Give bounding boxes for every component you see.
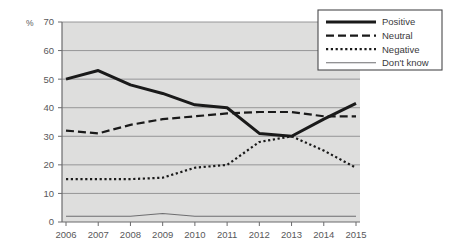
y-axis-tick-label: 0 <box>49 216 54 227</box>
y-axis-tick-label: 10 <box>43 188 54 199</box>
x-axis-tick-label: 2014 <box>313 229 334 240</box>
legend-label: Don't know <box>382 57 429 68</box>
y-axis-unit-label: % <box>26 18 34 28</box>
x-axis-tick-label: 2008 <box>120 229 141 240</box>
x-axis-tick-label: 2011 <box>217 229 237 240</box>
legend-label: Neutral <box>382 30 413 41</box>
x-axis-tick-labels: 2006200720082009201020112012201320142015 <box>55 229 366 240</box>
chart-canvas: 706050403020100 200620072008200920102011… <box>0 0 449 250</box>
y-axis-tick-label: 30 <box>43 131 54 142</box>
y-axis-tick-labels: 706050403020100 <box>43 16 54 227</box>
x-axis-tick-label: 2012 <box>249 229 270 240</box>
legend-label: Negative <box>382 44 420 55</box>
x-axis-tick-label: 2009 <box>152 229 173 240</box>
legend-label: Positive <box>382 16 415 27</box>
x-axis-tick-label: 2010 <box>184 229 205 240</box>
x-axis-tick-label: 2015 <box>345 229 366 240</box>
x-axis-tick-label: 2013 <box>281 229 302 240</box>
legend: PositiveNeutralNegativeDon't know <box>318 10 442 70</box>
line-chart: 706050403020100 200620072008200920102011… <box>0 0 449 250</box>
x-axis-tick-label: 2007 <box>88 229 109 240</box>
x-axis-tick-label: 2006 <box>55 229 76 240</box>
y-axis-tick-label: 40 <box>43 102 54 113</box>
y-axis-tick-label: 70 <box>43 16 54 27</box>
y-axis-tick-label: 20 <box>43 159 54 170</box>
y-axis-tick-label: 50 <box>43 74 54 85</box>
y-axis-tick-label: 60 <box>43 45 54 56</box>
x-axis-ticks <box>66 222 356 226</box>
